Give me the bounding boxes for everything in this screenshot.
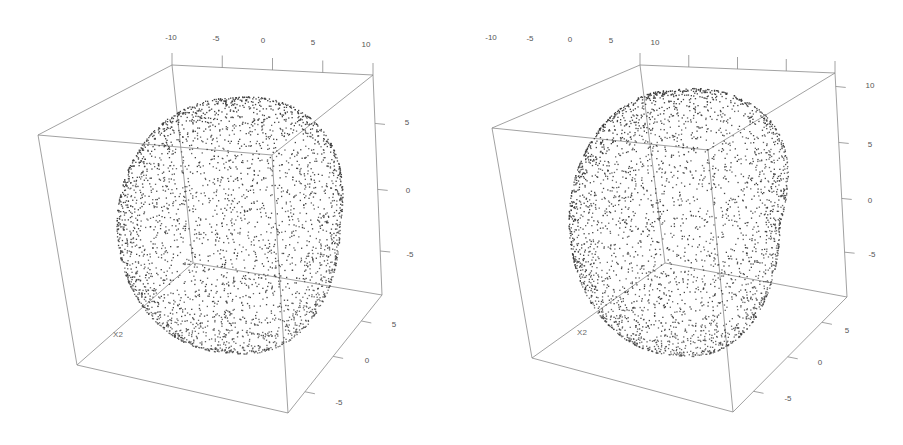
scatter3d-panel-left: -10 -5 0 5 10 5 0 -5 5 0 -5 X2 xyxy=(0,0,450,445)
box-edge xyxy=(77,365,288,413)
box-edge xyxy=(38,65,172,135)
box-edge xyxy=(640,65,665,263)
box-edge xyxy=(836,86,846,87)
bottom-tick-label: 5 xyxy=(392,320,396,329)
box-edge xyxy=(361,321,371,323)
box-edge xyxy=(77,263,193,365)
top-tick-label: 0 xyxy=(568,35,572,44)
box-edge xyxy=(288,295,382,413)
top-tick-label: 10 xyxy=(651,38,660,47)
box-edge xyxy=(193,263,382,295)
bottom-tick-label: 0 xyxy=(365,356,369,365)
box-edge xyxy=(665,263,847,297)
box-edge xyxy=(835,73,847,297)
top-tick-label: 5 xyxy=(609,36,613,45)
bottom-tick-label: 5 xyxy=(845,326,849,335)
plot-canvas-right xyxy=(450,0,903,445)
bottom-tick-label: -5 xyxy=(335,398,342,407)
box-edge xyxy=(754,391,764,393)
box-edge xyxy=(845,252,855,253)
box-edge xyxy=(492,65,640,128)
y-axis-label: X2 xyxy=(577,328,587,337)
box-edge xyxy=(373,75,382,295)
right-tick-label: 5 xyxy=(868,140,872,149)
box-edge xyxy=(272,155,288,413)
top-tick-label: -5 xyxy=(526,34,533,43)
top-tick-label: -10 xyxy=(165,33,177,42)
point-cloud xyxy=(569,88,790,357)
right-tick-label: 5 xyxy=(405,118,409,127)
top-tick-label: 10 xyxy=(362,40,371,49)
box-edge xyxy=(272,75,373,155)
box-edge xyxy=(532,358,733,412)
bottom-tick-label: -5 xyxy=(784,394,791,403)
scatter3d-panel-right: -10 -5 0 5 10 10 5 0 -5 5 0 -5 X2 xyxy=(450,0,903,445)
bottom-tick-label: 0 xyxy=(818,358,822,367)
y-axis-label: X2 xyxy=(113,330,123,339)
box-edge xyxy=(839,142,849,143)
box-edge xyxy=(375,123,385,124)
box-edge xyxy=(38,135,77,365)
box-edge xyxy=(788,357,798,359)
box-edge xyxy=(492,128,532,358)
box-edge xyxy=(380,251,390,252)
box-edge xyxy=(305,392,315,394)
right-tick-label: -5 xyxy=(868,250,875,259)
box-edge xyxy=(378,189,388,190)
right-tick-label: 10 xyxy=(866,81,875,90)
right-tick-label: 0 xyxy=(868,196,872,205)
top-tick-label: 5 xyxy=(311,38,315,47)
top-tick-label: 0 xyxy=(261,36,265,45)
box-edge xyxy=(333,356,343,358)
top-tick-label: -10 xyxy=(485,33,497,42)
right-tick-label: 0 xyxy=(406,186,410,195)
right-tick-label: -5 xyxy=(406,250,413,259)
box-edge xyxy=(172,65,193,263)
point-cloud xyxy=(116,96,343,355)
top-tick-label: -5 xyxy=(212,34,219,43)
box-edge xyxy=(842,198,852,199)
plot-canvas-left xyxy=(0,0,450,445)
box-edge xyxy=(822,322,832,324)
